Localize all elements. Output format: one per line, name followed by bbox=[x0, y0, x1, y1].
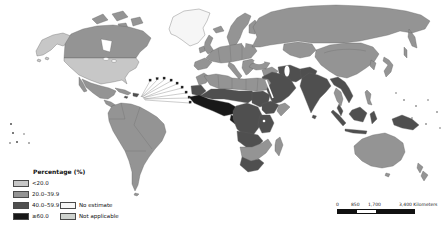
map-figure: Percentage (%) <20.0 20.0–39.9 40.0–59.9… bbox=[0, 0, 448, 231]
scale-tick-1700: 1,700 bbox=[368, 202, 381, 207]
region-thailand bbox=[334, 88, 343, 106]
region-iceland bbox=[213, 26, 224, 33]
region-sumatra bbox=[331, 110, 346, 126]
region-cuba bbox=[115, 88, 131, 95]
region-scandinavia bbox=[227, 13, 251, 46]
scale-tick-0: 0 bbox=[336, 202, 339, 207]
legend-item-lt20: <20.0 bbox=[13, 179, 49, 187]
legend-label-40-59: 40.0–59.9 bbox=[32, 202, 59, 208]
legend-swatch-not-applicable bbox=[60, 213, 76, 220]
region-java bbox=[345, 129, 367, 134]
region-tasmania bbox=[385, 173, 390, 177]
scale-bar-segments bbox=[337, 209, 415, 214]
legend-swatch-ge60 bbox=[13, 213, 29, 220]
scale-end-label: 3,400 Kilometers bbox=[399, 202, 437, 207]
legend-swatch-no-estimate bbox=[60, 202, 76, 209]
legend-item-40-59: 40.0–59.9 bbox=[13, 201, 59, 209]
legend-label-lt20: <20.0 bbox=[32, 180, 49, 186]
legend-swatch-20-39 bbox=[13, 191, 29, 198]
region-india bbox=[300, 73, 331, 113]
legend-label-ge60: ≥60.0 bbox=[32, 213, 49, 219]
legend-swatch-lt20 bbox=[13, 180, 29, 187]
region-new-guinea bbox=[392, 115, 419, 130]
region-east-africa bbox=[258, 115, 274, 133]
region-greenland bbox=[169, 9, 210, 46]
caspian-sea bbox=[284, 66, 289, 77]
scale-bar: 0 850 1,700 3,400 Kilometers bbox=[337, 202, 442, 216]
great-lakes bbox=[103, 58, 109, 61]
world-map bbox=[0, 0, 448, 231]
region-korea bbox=[370, 60, 376, 70]
region-south-america bbox=[108, 103, 166, 196]
region-ireland bbox=[199, 46, 205, 53]
legend-item-ge60: ≥60.0 bbox=[13, 212, 49, 220]
region-madagascar bbox=[275, 137, 283, 156]
region-new-zealand bbox=[417, 163, 428, 181]
region-sri-lanka bbox=[312, 115, 317, 119]
legend-label-no-estimate: No estimate bbox=[79, 202, 112, 208]
scale-tick-850: 850 bbox=[351, 202, 360, 207]
legend-label-not-applicable: Not applicable bbox=[79, 213, 119, 219]
great-lakes-2 bbox=[112, 60, 117, 63]
region-usa bbox=[64, 58, 139, 84]
region-sulawesi bbox=[370, 111, 377, 124]
region-australia bbox=[354, 133, 405, 168]
legend-label-20-39: 20.0–39.9 bbox=[32, 191, 59, 197]
region-china bbox=[315, 43, 379, 78]
region-central-asia bbox=[283, 42, 316, 58]
legend-item-not-applicable: Not applicable bbox=[60, 212, 119, 220]
region-japan bbox=[383, 57, 393, 77]
legend-swatch-40-59 bbox=[13, 202, 29, 209]
black-sea bbox=[254, 60, 265, 64]
region-somalia bbox=[277, 103, 290, 116]
region-borneo bbox=[349, 107, 367, 122]
caribbean-callout-markers bbox=[141, 77, 191, 103]
legend-item-no-estimate: No estimate bbox=[60, 201, 112, 209]
legend-title: Percentage (%) bbox=[33, 168, 85, 175]
lake-victoria bbox=[263, 120, 266, 123]
region-philippines bbox=[365, 90, 372, 105]
legend-item-20-39: 20.0–39.9 bbox=[13, 190, 59, 198]
